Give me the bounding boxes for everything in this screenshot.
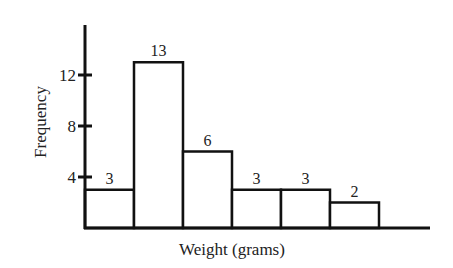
bar-value-label: 2 [351,183,359,200]
bars [85,62,379,228]
bar-value-label: 6 [204,132,212,149]
histogram-bar [281,190,330,228]
histogram-chart: 3136332 4812 Frequency Weight (grams) [0,0,453,268]
y-axis-label: Frequency [31,86,50,158]
histogram-bar [134,62,183,228]
y-tick-label: 8 [68,117,77,136]
histogram-bar [330,203,379,229]
histogram-bar [232,190,281,228]
x-axis-label: Weight (grams) [179,240,285,259]
y-tick-label: 4 [68,168,77,187]
y-ticks: 4812 [59,66,92,187]
histogram-bar [183,152,232,229]
histogram-bar [85,190,134,228]
bar-value-label: 13 [151,42,167,59]
bar-value-label: 3 [302,170,310,187]
y-tick-label: 12 [59,66,76,85]
bar-value-label: 3 [253,170,261,187]
bar-value-label: 3 [106,170,114,187]
